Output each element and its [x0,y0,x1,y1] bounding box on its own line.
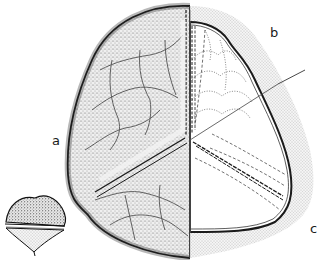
label-b: b [270,26,278,39]
label-c: c [310,222,317,235]
label-a: a [52,134,60,147]
section-view-half [190,6,313,258]
lateral-view-inset [5,196,65,256]
spore-figure: a b c [0,0,323,260]
surface-view-half [68,6,190,258]
